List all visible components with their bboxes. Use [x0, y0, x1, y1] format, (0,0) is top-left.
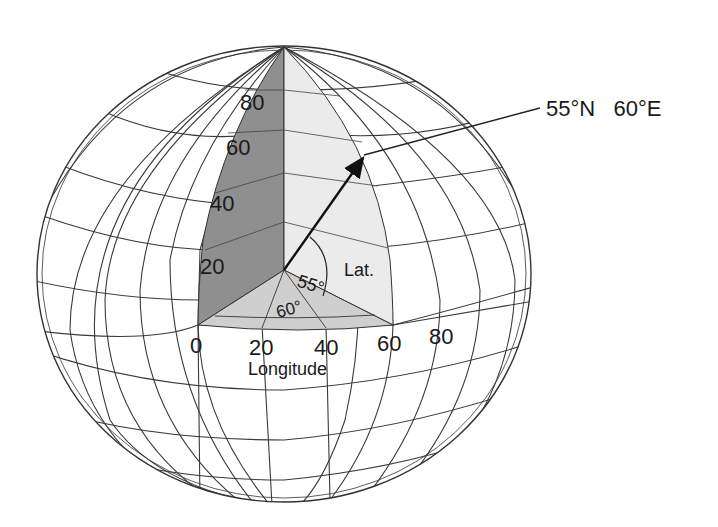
longitude-tick-0: 0 [190, 333, 202, 358]
latitude-abbrev-label: Lat. [344, 260, 374, 280]
latitude-tick-40: 40 [210, 191, 234, 216]
globe-diagram: 55°N 60°E 80 60 40 20 55° Lat. 60° 0 20 … [0, 0, 718, 527]
latitude-tick-80: 80 [240, 90, 264, 115]
longitude-tick-80: 80 [429, 324, 453, 349]
longitude-tick-60: 60 [377, 331, 401, 356]
latitude-tick-20: 20 [200, 254, 224, 279]
latitude-tick-60: 60 [226, 135, 250, 160]
longitude-axis-label: Longitude [248, 359, 327, 379]
point-coordinate-label: 55°N 60°E [546, 96, 661, 121]
longitude-tick-20: 20 [249, 335, 273, 360]
longitude-tick-40: 40 [314, 335, 338, 360]
